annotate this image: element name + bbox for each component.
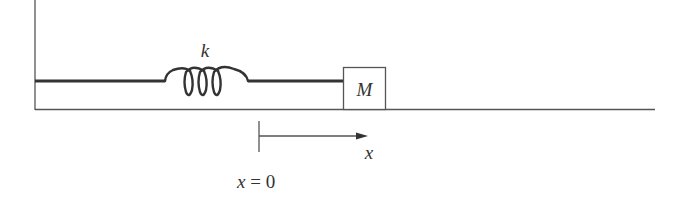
arrowhead-icon xyxy=(356,133,368,140)
origin-label: x = 0 xyxy=(236,171,275,192)
spring xyxy=(165,67,248,95)
mass-label: M xyxy=(356,79,374,100)
x-axis-label: x xyxy=(364,142,374,163)
spring-mass-diagram: M k x x = 0 xyxy=(0,0,682,208)
origin-label-eq: = 0 xyxy=(245,171,275,192)
spring-constant-label: k xyxy=(201,40,210,61)
